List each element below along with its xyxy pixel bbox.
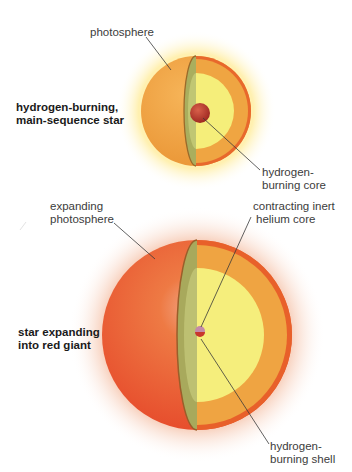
label-hydrogen-burning-shell: hydrogen- burning shell — [270, 440, 335, 466]
star-diagram — [0, 0, 352, 472]
hydrogen-burning-core — [190, 103, 210, 123]
main-sequence-star — [116, 31, 276, 191]
label-expanding-photosphere: expanding photosphere — [50, 200, 114, 226]
label-hydrogen-burning-core: hydrogen- burning core — [262, 166, 326, 192]
red-giant-star — [69, 207, 325, 463]
stray-mark — [20, 222, 26, 230]
label-helium-core: contracting inert helium core — [253, 200, 335, 226]
title-red-giant: star expanding into red giant — [18, 326, 100, 352]
helium-core — [195, 326, 205, 337]
title-main-sequence: hydrogen-burning, main-sequence star — [16, 101, 124, 127]
label-photosphere: photosphere — [90, 26, 154, 39]
